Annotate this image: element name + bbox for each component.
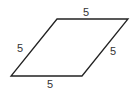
side-label-left: 5 bbox=[17, 42, 23, 54]
side-label-bottom: 5 bbox=[47, 78, 53, 90]
rhombus-diagram: 5 5 5 5 bbox=[0, 0, 130, 101]
side-label-top: 5 bbox=[83, 6, 89, 18]
side-label-right: 5 bbox=[110, 45, 116, 57]
